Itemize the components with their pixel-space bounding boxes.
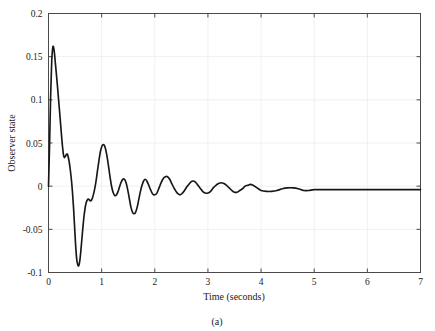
x-axis-tick-labels: 01234567 (46, 277, 423, 287)
y-tick-label: 0.2 (31, 9, 43, 19)
gridlines (49, 14, 421, 273)
x-tick-label: 1 (99, 277, 104, 287)
figure-caption: (a) (211, 316, 222, 328)
y-tick-label: -0.05 (23, 225, 43, 235)
data-series-line (49, 46, 421, 266)
x-tick-label: 0 (46, 277, 51, 287)
x-tick-label: 2 (152, 277, 157, 287)
y-tick-label: 0 (38, 182, 43, 192)
y-tick-label: 0.05 (26, 139, 43, 149)
y-tick-label: 0.15 (26, 52, 43, 62)
y-tick-label: -0.1 (27, 268, 42, 278)
y-tick-label: 0.1 (31, 95, 43, 105)
x-axis-title: Time (seconds) (203, 291, 265, 303)
x-tick-label: 4 (259, 277, 264, 287)
x-tick-label: 7 (418, 277, 423, 287)
observer-state-chart: 01234567 -0.1-0.0500.050.10.150.2 Time (… (0, 0, 435, 331)
y-axis-tick-labels: -0.1-0.0500.050.10.150.2 (23, 9, 43, 278)
x-tick-label: 6 (365, 277, 370, 287)
y-axis-title: Observer state (6, 114, 17, 172)
x-tick-label: 5 (312, 277, 317, 287)
x-tick-label: 3 (206, 277, 211, 287)
figure-container: 01234567 -0.1-0.0500.050.10.150.2 Time (… (0, 0, 435, 331)
observer-state-curve (49, 46, 421, 266)
